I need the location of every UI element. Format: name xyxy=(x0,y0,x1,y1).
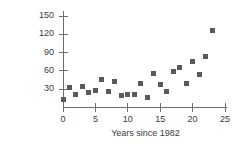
x-axis-tick-label: 5 xyxy=(85,114,105,124)
y-axis-tick-label-text: 150 xyxy=(32,11,54,20)
data-point xyxy=(184,81,189,86)
data-point xyxy=(125,92,130,97)
data-point xyxy=(177,65,182,70)
x-axis-tick-label-text: 0 xyxy=(53,114,73,124)
y-axis-tick-label-text: 90 xyxy=(32,48,54,57)
scatter-chart: Acres per fire 306090120150 0510152025 Y… xyxy=(0,0,249,144)
data-point xyxy=(145,95,150,100)
data-point xyxy=(210,28,215,33)
y-axis-tick-label-text: 120 xyxy=(32,29,54,38)
data-point xyxy=(151,71,156,76)
y-axis-tick-label-text: 60 xyxy=(32,66,54,75)
y-axis-tick-label: 90 xyxy=(32,48,54,57)
data-point xyxy=(203,54,208,59)
x-axis-tick-label: 15 xyxy=(150,114,170,124)
y-axis-tick-label: 30 xyxy=(32,84,54,93)
data-point xyxy=(67,85,72,90)
x-axis-tick-label-text: 20 xyxy=(183,114,203,124)
data-point xyxy=(164,89,169,94)
x-axis-title: Years since 1982 xyxy=(63,128,228,139)
x-axis-tick-label: 10 xyxy=(118,114,138,124)
x-axis-tick-label-text: 25 xyxy=(215,114,235,124)
x-axis-tick-label-text: 10 xyxy=(118,114,138,124)
data-point xyxy=(93,88,98,93)
y-axis-tick-label: 150 xyxy=(32,11,54,20)
data-point xyxy=(190,59,195,64)
data-point xyxy=(99,77,104,82)
y-axis-tick-label: 60 xyxy=(32,66,54,75)
data-point xyxy=(73,92,78,97)
x-axis-tick-label-text: 5 xyxy=(85,114,105,124)
y-axis-tick-label: 120 xyxy=(32,29,54,38)
x-axis-line xyxy=(63,107,227,108)
data-point xyxy=(171,69,176,74)
data-point xyxy=(86,90,91,95)
data-point xyxy=(119,93,124,98)
x-axis-tick-label: 20 xyxy=(183,114,203,124)
data-point xyxy=(138,81,143,86)
x-axis-tick-label: 0 xyxy=(53,114,73,124)
data-point xyxy=(106,89,111,94)
x-axis-tick-label-text: 15 xyxy=(150,114,170,124)
data-point xyxy=(61,97,66,102)
data-point xyxy=(158,82,163,87)
data-point xyxy=(132,92,137,97)
data-point xyxy=(197,72,202,77)
data-point xyxy=(112,79,117,84)
data-point xyxy=(80,84,85,89)
y-axis-tick-label-text: 30 xyxy=(32,84,54,93)
x-axis-tick-label: 25 xyxy=(215,114,235,124)
